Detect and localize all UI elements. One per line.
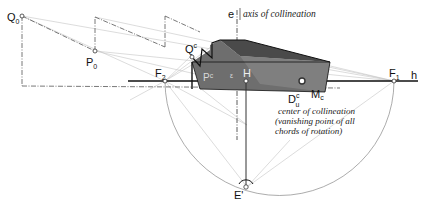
svg-text:h: h xyxy=(411,69,417,81)
center-annotation: center of collineation (vanishing point … xyxy=(275,106,355,136)
axis-annotation: axis of collineation xyxy=(243,9,316,19)
point-Qc xyxy=(190,55,194,59)
svg-text:Q0: Q0 xyxy=(7,11,20,25)
svg-text:Qc: Qc xyxy=(185,42,198,55)
svg-text:F2: F2 xyxy=(155,67,166,81)
svg-text:H: H xyxy=(243,67,251,79)
svg-text:P0: P0 xyxy=(86,56,97,70)
point-P0 xyxy=(93,49,97,53)
point-H xyxy=(244,79,248,83)
svg-text:chords of rotation): chords of rotation) xyxy=(275,126,342,136)
svg-text:e: e xyxy=(228,8,234,20)
solid-figure xyxy=(192,40,330,92)
point-E-prime xyxy=(244,185,248,189)
point-Q0 xyxy=(20,14,24,18)
svg-text:F1: F1 xyxy=(389,67,400,81)
svg-text:ε: ε xyxy=(230,72,233,79)
rotation-circle xyxy=(165,81,394,196)
construction-lines xyxy=(22,16,394,187)
points xyxy=(20,14,396,189)
svg-text:(vanishing point of all: (vanishing point of all xyxy=(275,116,355,126)
svg-text:E': E' xyxy=(234,189,243,201)
collineation-diagram: Q0 P0 Qc Pc F2 F1 H ε h e Dcu Mc E' axis… xyxy=(0,0,430,207)
point-Mc xyxy=(299,78,305,84)
svg-text:center of collineation: center of collineation xyxy=(278,106,355,116)
